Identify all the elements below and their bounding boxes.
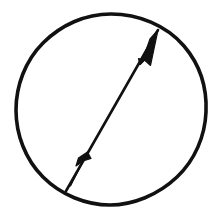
figure-background bbox=[0, 0, 222, 218]
circle-diameter-arrow-figure: Circle with double-headed diameter arrow… bbox=[0, 0, 222, 218]
figure-root: Circle with double-headed diameter arrow… bbox=[0, 0, 222, 218]
